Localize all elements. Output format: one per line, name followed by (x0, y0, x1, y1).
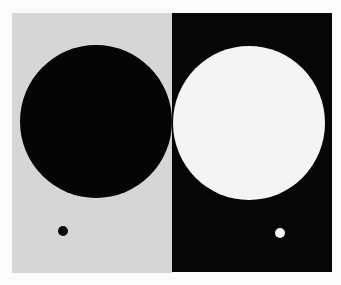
large-white-circle (173, 46, 325, 200)
small-black-dot (58, 226, 68, 236)
large-black-circle (20, 45, 172, 198)
small-white-dot (275, 228, 285, 238)
